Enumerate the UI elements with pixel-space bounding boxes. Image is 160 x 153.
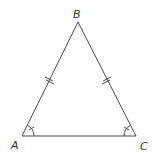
vertex-label-c: C <box>140 140 148 153</box>
isosceles-triangle-diagram: B A C <box>0 0 160 153</box>
vertex-label-b: B <box>73 8 81 21</box>
angle-a-marker <box>27 125 34 136</box>
vertex-label-a: A <box>10 139 19 152</box>
triangle-sides <box>22 22 136 136</box>
angle-c-marker <box>124 125 131 136</box>
